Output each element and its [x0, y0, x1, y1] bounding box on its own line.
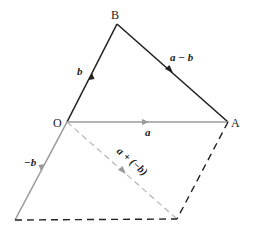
dashed-side-right — [177, 122, 228, 219]
vector-a-arrow-icon — [142, 119, 149, 125]
vector-diagram-svg: O B A b a − b a −b a + (−b) — [0, 0, 253, 238]
vector-label-b: b — [77, 65, 83, 77]
vector-a-minus-b-line — [117, 24, 228, 122]
vector-label-a-minus-b: a − b — [170, 51, 194, 63]
vector-label-neg-b: −b — [24, 156, 37, 168]
vector-label-a: a — [145, 126, 151, 138]
vector-a-minus-b-arrow-icon — [165, 65, 173, 73]
point-label-b: B — [111, 8, 119, 22]
vector-a-plus-neg-b-arrow-icon — [118, 166, 126, 174]
point-label-a: A — [231, 116, 240, 130]
vector-label-a-plus-neg-b: a + (−b) — [114, 144, 150, 178]
dashed-side-bottom — [15, 219, 177, 220]
point-label-o: O — [53, 116, 62, 130]
vector-diagram: O B A b a − b a −b a + (−b) — [0, 0, 253, 238]
